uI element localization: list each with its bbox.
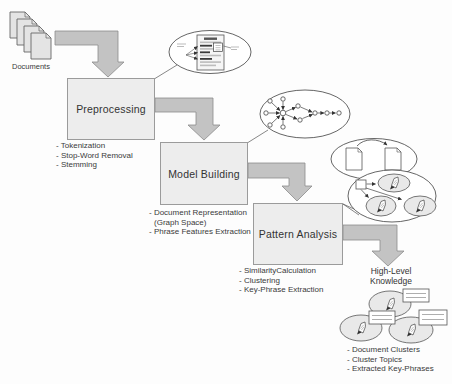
bullet-item: - SimilarityCalculation xyxy=(239,266,323,276)
pattern-analysis-bullets: - SimilarityCalculation - Clustering - K… xyxy=(239,266,323,295)
high-level-knowledge-line1: High-Level xyxy=(358,266,424,276)
stage-box-preprocessing: Preprocessing xyxy=(67,78,155,140)
topic-callout xyxy=(403,289,429,302)
bullet-item: - Clustering xyxy=(239,276,323,286)
bullet-item: - Tokenization xyxy=(56,141,133,151)
topic-callout xyxy=(419,310,447,325)
preprocessing-bullets: - Tokenization - Stop-Word Removal - Ste… xyxy=(56,141,133,170)
arrow-model-building-to-pattern-analysis xyxy=(248,163,312,201)
bullet-item: (Graph Space) xyxy=(149,218,251,228)
bullet-item: - Extracted Key-Phrases xyxy=(347,364,434,374)
bullet-item: - Document Clusters xyxy=(347,345,434,355)
arrow-pattern-analysis-to-knowledge xyxy=(343,225,404,266)
stage-box-model-building: Model Building xyxy=(160,142,248,205)
model-building-bullets: - Document Representation (Graph Space) … xyxy=(149,208,251,237)
knowledge-clusters-with-callouts-icon xyxy=(340,289,447,343)
output-bullets: - Document Clusters - Cluster Topics - E… xyxy=(347,345,434,374)
stage-label-preprocessing: Preprocessing xyxy=(76,103,146,115)
clustering-ellipse-icon xyxy=(348,170,436,222)
high-level-knowledge-label: High-Level Knowledge xyxy=(358,266,424,286)
stage-box-pattern-analysis: Pattern Analysis xyxy=(253,203,343,265)
annotated-document-ellipse-icon xyxy=(169,31,251,74)
bullet-item: - Stemming xyxy=(56,160,133,170)
bullet-item: - Phrase Features Extraction xyxy=(149,227,251,237)
topic-callout xyxy=(369,311,395,324)
documents-stack-icon xyxy=(10,12,51,59)
stage-label-pattern-analysis: Pattern Analysis xyxy=(259,228,338,240)
bullet-item: - Stop-Word Removal xyxy=(56,151,133,161)
pipeline-diagram: Documents Preprocessing - Tokenization -… xyxy=(0,0,452,384)
graph-space-ellipse-icon xyxy=(260,90,350,138)
bullet-item: - Cluster Topics xyxy=(347,355,434,365)
stage-label-model-building: Model Building xyxy=(168,168,240,180)
arrow-documents-to-preprocessing xyxy=(55,31,124,77)
documents-label: Documents xyxy=(12,62,50,71)
bullet-item: - Document Representation xyxy=(149,208,251,218)
arrow-preprocessing-to-model-building xyxy=(155,98,220,140)
high-level-knowledge-line2: Knowledge xyxy=(358,276,424,286)
bullet-item: - Key-Phrase Extraction xyxy=(239,285,323,295)
